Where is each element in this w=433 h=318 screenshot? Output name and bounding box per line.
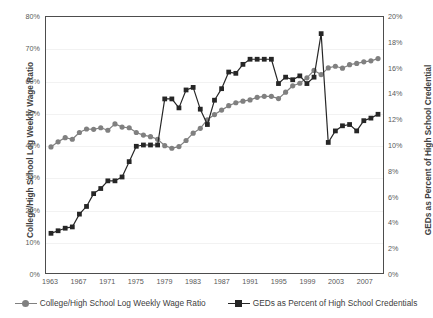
data-point-marker <box>176 144 181 149</box>
data-point-marker <box>376 112 381 117</box>
x-axis-tick-label: 1995 <box>271 277 287 286</box>
series-2 <box>49 31 381 235</box>
x-axis-tick-label: 1983 <box>185 277 201 286</box>
data-point-marker <box>205 122 210 127</box>
y-axis-left-tick-label: 80% <box>2 12 40 21</box>
data-point-marker <box>148 134 153 139</box>
data-point-marker <box>262 57 267 62</box>
data-point-marker <box>70 225 75 230</box>
data-point-marker <box>183 138 188 143</box>
data-point-marker <box>354 129 359 134</box>
data-point-marker <box>120 175 125 180</box>
data-point-marker <box>91 127 96 132</box>
data-point-marker <box>269 94 274 99</box>
y-axis-left-tick-label: 30% <box>2 173 40 182</box>
data-point-marker <box>191 131 196 136</box>
data-point-marker <box>98 125 103 130</box>
y-axis-right-tick-label: 6% <box>388 192 428 201</box>
y-axis-right-tick-label: 10% <box>388 141 428 150</box>
y-axis-left-tick-label: 20% <box>2 205 40 214</box>
data-point-marker <box>134 144 139 149</box>
x-axis-tick-label: 1975 <box>128 277 144 286</box>
data-point-marker <box>91 191 96 196</box>
y-axis-right-tick-label: 20% <box>388 12 428 21</box>
y-axis-left-tick-label: 70% <box>2 44 40 53</box>
data-point-marker <box>276 96 281 101</box>
data-point-marker <box>326 65 331 70</box>
y-axis-left-tick-label: 50% <box>2 108 40 117</box>
data-point-marker <box>77 130 82 135</box>
data-point-marker <box>262 94 267 99</box>
data-point-marker <box>77 212 82 217</box>
data-point-marker <box>105 178 110 183</box>
data-point-marker <box>141 132 146 137</box>
y-axis-right-tick-label: 2% <box>388 244 428 253</box>
data-point-marker <box>319 31 324 36</box>
data-point-marker <box>112 121 117 126</box>
data-point-marker <box>191 85 196 90</box>
legend-label-wage-ratio: College/High School Log Weekly Wage Rati… <box>40 298 206 308</box>
data-point-marker <box>312 75 317 80</box>
data-point-marker <box>226 103 231 108</box>
data-point-marker <box>105 128 110 133</box>
data-point-marker <box>141 143 146 148</box>
data-point-marker <box>255 57 260 62</box>
data-point-marker <box>198 107 203 112</box>
series-1 <box>48 56 380 151</box>
y-axis-right-tick-label: 4% <box>388 218 428 227</box>
plot-area <box>45 16 384 274</box>
chart-legend: College/High School Log Weekly Wage Rati… <box>0 298 432 308</box>
data-point-marker <box>333 129 338 134</box>
data-point-marker <box>63 226 68 231</box>
x-axis-tick-label: 1987 <box>214 277 230 286</box>
y-axis-left-tick-label: 60% <box>2 76 40 85</box>
data-point-marker <box>247 97 252 102</box>
data-point-marker <box>113 178 118 183</box>
y-axis-left-tick-label: 40% <box>2 141 40 150</box>
data-point-marker <box>375 56 380 61</box>
data-point-marker <box>56 139 61 144</box>
data-point-marker <box>70 137 75 142</box>
x-axis-tick-label: 1967 <box>71 277 87 286</box>
data-point-marker <box>134 130 139 135</box>
data-point-marker <box>162 143 167 148</box>
data-point-marker <box>354 61 359 66</box>
data-point-marker <box>63 135 68 140</box>
data-point-marker <box>290 77 295 82</box>
data-point-marker <box>184 88 189 93</box>
data-point-marker <box>169 97 174 102</box>
x-axis-tick-label: 1963 <box>42 277 58 286</box>
data-point-marker <box>127 125 132 130</box>
data-point-marker <box>241 62 246 67</box>
data-point-marker <box>233 100 238 105</box>
data-point-marker <box>148 143 153 148</box>
data-point-marker <box>361 59 366 64</box>
data-point-marker <box>333 64 338 69</box>
y-axis-right-tick-label: 18% <box>388 37 428 46</box>
y-axis-right-tick-label: 16% <box>388 63 428 72</box>
x-axis-tick-label: 1979 <box>156 277 172 286</box>
data-point-marker <box>198 126 203 131</box>
data-point-marker <box>49 231 54 236</box>
data-point-marker <box>119 125 124 130</box>
data-point-marker <box>269 57 274 62</box>
data-point-marker <box>177 105 182 110</box>
series-line <box>51 59 378 149</box>
data-point-marker <box>240 99 245 104</box>
x-axis-tick-label: 2007 <box>357 277 373 286</box>
y-axis-left-tick-label: 0% <box>2 270 40 279</box>
y-axis-right-tick-label: 14% <box>388 89 428 98</box>
legend-label-ged-percent: GEDs as Percent of High School Credentia… <box>253 298 418 308</box>
data-point-marker <box>84 204 89 209</box>
data-point-marker <box>304 75 309 80</box>
data-point-marker <box>169 146 174 151</box>
data-point-marker <box>361 118 366 123</box>
y-axis-right-tick-label: 0% <box>388 270 428 279</box>
data-point-marker <box>84 126 89 131</box>
data-point-marker <box>212 112 217 117</box>
x-axis-tick-label: 1991 <box>242 277 258 286</box>
data-point-marker <box>340 66 345 71</box>
y-axis-left-tick-label: 10% <box>2 237 40 246</box>
data-point-marker <box>127 159 132 164</box>
